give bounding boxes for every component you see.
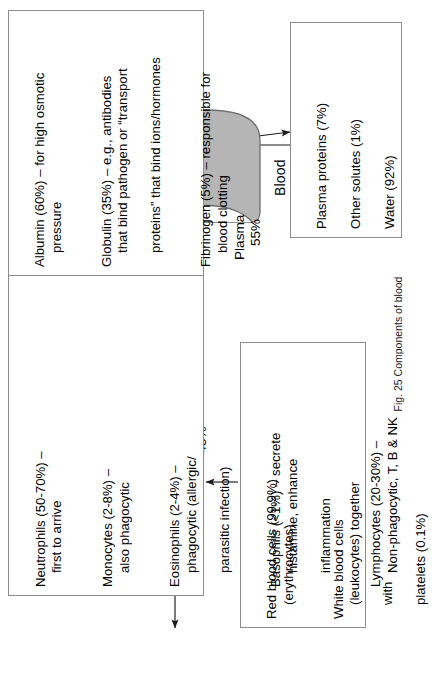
eosinophils-line-3: parasitic infection): [217, 267, 234, 587]
figure-caption-text: Components of blood: [392, 277, 404, 377]
globulin-line-2: that bind pathogen or “transport: [115, 19, 131, 267]
globulin-line-3: proteins” that bind ions/hormones: [148, 19, 164, 267]
list-item: Plasma proteins (7%): [298, 31, 331, 229]
basophils-line-3: inflammation: [318, 267, 335, 587]
basophils-line-2: histamine, enhance: [285, 267, 302, 587]
fibrinogen-line-1: Fibrinogen (5%) – responsible for: [198, 72, 213, 267]
list-item: Monocytes (2-8%) – also phagocytic: [83, 267, 149, 587]
monocytes-line-2: also phagocytic: [117, 267, 134, 587]
albumin-line-1: Albumin (60%) – for high osmotic: [32, 73, 47, 267]
basophils-line-1: Basophils (<1%) – secrete: [268, 433, 283, 587]
plasma-branch-percent: 55%: [248, 140, 264, 260]
list-item: Basophils (<1%) – secrete histamine, enh…: [251, 267, 351, 587]
arrow-plasma-to-parts-box: [258, 132, 290, 136]
list-item: Fibrinogen (5%) – responsible for blood …: [182, 19, 248, 267]
list-item: Neutrophils (50-70%) – first to arrive: [16, 267, 82, 587]
eosinophils-line-2: phagocytic (allergic/: [184, 267, 201, 587]
neutrophils-line-1: Neutrophils (50-70%) –: [33, 451, 48, 587]
list-item: Globulin (35%) – e.g., antibodies that b…: [83, 19, 181, 267]
plasma-proteins-detail-box: Albumin (60%) – for high osmotic pressur…: [8, 10, 204, 276]
monocytes-line-1: Monocytes (2-8%) –: [100, 469, 115, 587]
other-solutes-line: Other solutes (1%): [348, 119, 363, 229]
neutrophils-line-2: first to arrive: [49, 267, 66, 587]
wbc-types-list: Neutrophils (50-70%) – first to arrive M…: [16, 267, 418, 587]
figure-caption: Fig. 25 Components of blood: [392, 0, 404, 688]
fibrinogen-line-2: blood clotting: [215, 19, 231, 267]
white-blood-cell-types-box: Neutrophils (50-70%) – first to arrive M…: [8, 258, 204, 596]
blood-root-label: Blood: [272, 159, 288, 196]
list-item: Albumin (60%) – for high osmotic pressur…: [16, 19, 82, 267]
list-item: Lymphocytes (20-30%) – Non-phagocytic, T…: [352, 267, 418, 587]
plasma-proteins-line: Plasma proteins (7%): [314, 103, 329, 229]
globulin-line-1: Globulin (35%) – e.g., antibodies: [99, 76, 114, 267]
plasma-parts-list: Plasma proteins (7%) Other solutes (1%) …: [298, 31, 398, 229]
lymphocytes-line-1: Lymphocytes (20-30%) –: [368, 441, 383, 587]
list-item: Other solutes (1%): [332, 31, 365, 229]
plasma-proteins-detail-list: Albumin (60%) – for high osmotic pressur…: [16, 19, 248, 267]
eosinophils-line-1: Eosinophils (2-4%) –: [167, 465, 182, 587]
albumin-line-2: pressure: [49, 19, 65, 267]
figure-number: Fig. 25: [392, 379, 404, 411]
plasma-parts-box: Plasma proteins (7%) Other solutes (1%) …: [290, 22, 402, 238]
list-item: Eosinophils (2-4%) – phagocytic (allergi…: [151, 267, 251, 587]
